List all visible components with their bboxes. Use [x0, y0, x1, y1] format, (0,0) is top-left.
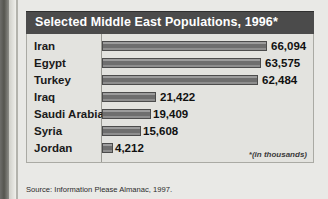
bar-syria [102, 126, 141, 136]
category-label: Saudi Arabia [34, 106, 104, 122]
bar-iran [102, 41, 267, 51]
chart-title: Selected Middle East Populations, 1996* [26, 11, 314, 34]
bar-iraq [102, 92, 156, 102]
page-gutter-line [16, 0, 18, 199]
table-row: Turkey 62,484 [27, 72, 313, 88]
bar-value-turkey: 62,484 [262, 72, 297, 88]
bar-value-syria: 15,608 [143, 123, 178, 139]
bar-value-iraq: 21,422 [160, 89, 195, 105]
category-label: Egypt [34, 55, 66, 71]
bar-jordan [102, 143, 113, 153]
bar-saudi-arabia [102, 109, 151, 119]
bar-egypt [102, 58, 261, 68]
table-row: Iran 66,094 [27, 38, 313, 54]
chart-plot-area: Iran 66,094 Egypt 63,575 Turkey 62,484 I… [26, 34, 314, 163]
category-label: Syria [34, 123, 62, 139]
category-label: Iraq [34, 89, 55, 105]
scanned-page: Selected Middle East Populations, 1996* … [0, 0, 328, 199]
source-citation: Source: Information Please Almanac, 1997… [26, 185, 172, 194]
population-bar-chart-figure: Selected Middle East Populations, 1996* … [26, 11, 314, 163]
table-row: Egypt 63,575 [27, 55, 313, 71]
bar-turkey [102, 75, 258, 85]
page-gutter [9, 0, 16, 199]
bar-value-saudi-arabia: 19,409 [153, 106, 188, 122]
bar-value-jordan: 4,212 [115, 140, 144, 156]
table-row: Syria 15,608 [27, 123, 313, 139]
bar-value-iran: 66,094 [271, 38, 306, 54]
chart-footnote: *(in thousands) [249, 150, 307, 159]
bar-value-egypt: 63,575 [265, 55, 300, 71]
page-binding-shadow [0, 0, 9, 199]
table-row: Saudi Arabia 19,409 [27, 106, 313, 122]
category-label: Iran [34, 38, 55, 54]
category-label: Jordan [34, 140, 72, 156]
category-label: Turkey [34, 72, 71, 88]
table-row: Iraq 21,422 [27, 89, 313, 105]
